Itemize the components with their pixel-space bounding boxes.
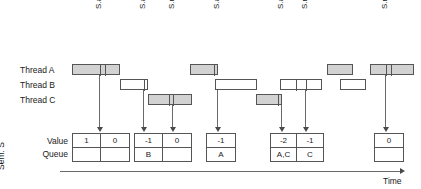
thread-execution-bar	[190, 64, 218, 75]
queue-row-label: Queue	[20, 149, 68, 159]
semaphore-queue	[163, 148, 191, 161]
semaphore-value: -2	[271, 134, 296, 148]
semaphore-name-label: Sem. S	[0, 142, 6, 170]
operation-label: S.release();	[380, 0, 389, 9]
semaphore-value: -1	[207, 134, 235, 148]
semaphore-queue: B	[135, 148, 162, 161]
thread-execution-bar	[340, 79, 366, 90]
thread-row-label: Thread C	[20, 95, 55, 105]
semaphore-state-cell: 0	[375, 134, 403, 161]
bar-tick-mark	[391, 65, 392, 76]
event-arrow-line	[99, 75, 100, 128]
time-axis-line	[60, 171, 400, 172]
semaphore-queue: A,C	[271, 148, 296, 161]
event-arrow-head	[215, 127, 221, 132]
event-arrow-line	[143, 90, 144, 128]
event-arrow-head	[170, 127, 176, 132]
semaphore-state-cell: -2A,C	[271, 134, 297, 161]
thread-execution-bar	[215, 79, 257, 90]
bar-tick-mark	[214, 65, 215, 76]
thread-row-label: Thread B	[20, 80, 55, 90]
thread-execution-bar	[120, 79, 148, 90]
thread-execution-bar	[280, 79, 322, 90]
semaphore-queue: A	[207, 148, 235, 161]
semaphore-state-cell: -1A	[207, 134, 235, 161]
thread-execution-bar	[370, 64, 414, 75]
semaphore-state-group: -1A	[206, 133, 236, 162]
semaphore-queue	[375, 148, 403, 161]
bar-tick-mark	[306, 80, 307, 91]
bar-tick-mark	[100, 65, 101, 76]
bar-tick-mark	[278, 95, 279, 106]
semaphore-state-cell: -1C	[297, 134, 323, 161]
operation-label: S.acquire();	[138, 0, 147, 9]
bar-tick-mark	[144, 80, 145, 91]
semaphore-state-group: 0	[374, 133, 404, 162]
operation-label: S.release();	[167, 0, 176, 9]
semaphore-value: 0	[101, 134, 129, 148]
event-arrow-line	[217, 90, 218, 128]
semaphore-timeline-diagram: S.acquire();S.acquire();S.release();S.ac…	[0, 0, 421, 189]
thread-execution-bar	[256, 94, 282, 105]
operation-label: S.release();	[300, 0, 309, 9]
semaphore-value: -1	[297, 134, 323, 148]
operation-label: S.acquire();	[276, 0, 285, 9]
semaphore-state-group: -1B0	[134, 133, 192, 162]
bar-tick-mark	[173, 95, 174, 106]
bar-tick-mark	[105, 65, 106, 76]
thread-execution-bar	[72, 64, 120, 75]
semaphore-state-cell: 0	[163, 134, 191, 161]
operation-label: S.acquire();	[94, 0, 103, 9]
thread-execution-bar	[148, 94, 192, 105]
event-arrow-line	[385, 75, 386, 128]
thread-execution-bar	[327, 64, 353, 75]
semaphore-value: -1	[135, 134, 162, 148]
time-axis-label: Time	[383, 176, 402, 186]
semaphore-value: 0	[375, 134, 403, 148]
value-row-label: Value	[20, 136, 68, 146]
event-arrow-head	[97, 127, 103, 132]
semaphore-state-group: 10	[72, 133, 130, 162]
semaphore-state-group: -2A,C-1C	[270, 133, 324, 162]
semaphore-queue: C	[297, 148, 323, 161]
event-arrow-head	[141, 127, 147, 132]
event-arrow-head	[303, 127, 309, 132]
event-arrow-line	[172, 105, 173, 128]
semaphore-state-cell: 0	[101, 134, 129, 161]
event-arrow-line	[305, 90, 306, 128]
semaphore-queue	[101, 148, 129, 161]
bar-tick-mark	[386, 65, 387, 76]
semaphore-value: 1	[73, 134, 100, 148]
semaphore-queue	[73, 148, 100, 161]
bar-tick-mark	[296, 80, 297, 91]
time-axis-arrowhead	[400, 168, 405, 174]
event-arrow-line	[281, 105, 282, 128]
semaphore-state-cell: -1B	[135, 134, 163, 161]
event-arrow-head	[279, 127, 285, 132]
semaphore-state-cell: 1	[73, 134, 101, 161]
thread-row-label: Thread A	[20, 65, 55, 75]
bar-tick-mark	[169, 95, 170, 106]
semaphore-value: 0	[163, 134, 191, 148]
operation-label: S.acquire();	[212, 0, 221, 9]
event-arrow-head	[383, 127, 389, 132]
